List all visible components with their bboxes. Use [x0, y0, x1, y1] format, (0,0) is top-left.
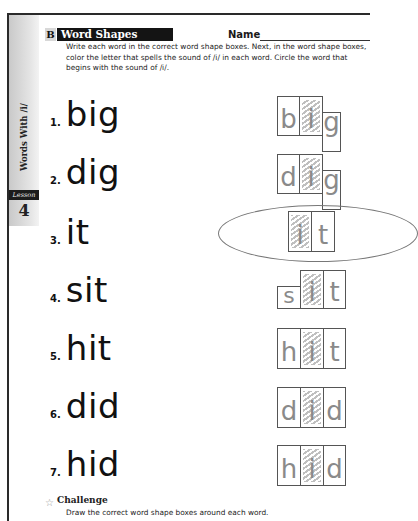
letter-box[interactable]: d: [323, 387, 346, 428]
name-field[interactable]: [260, 40, 370, 41]
letter-box[interactable]: d: [277, 387, 301, 428]
item-number: 4.: [50, 293, 61, 304]
letter-box[interactable]: t: [323, 328, 346, 369]
letter-box-descender[interactable]: g: [322, 112, 341, 152]
item-number: 2.: [50, 175, 61, 186]
top-border: [8, 13, 370, 15]
letter-box-colored[interactable]: i: [288, 211, 312, 252]
item-word: did: [66, 386, 120, 426]
letter-box[interactable]: b: [277, 96, 300, 136]
side-tab-title: Words With /i/: [9, 92, 39, 182]
item-number: 3.: [50, 235, 61, 246]
lesson-label: Lesson: [9, 190, 39, 200]
item-number: 7.: [50, 467, 61, 478]
item-2: 2. dig: [50, 152, 120, 192]
item-word: hid: [66, 444, 120, 484]
instructions: Write each word in the correct word shap…: [66, 42, 368, 74]
letter-box-short[interactable]: s: [277, 286, 301, 309]
letter-box-descender[interactable]: g: [322, 170, 341, 210]
item-word: big: [66, 94, 120, 134]
item-6: 6. did: [50, 386, 120, 426]
item-3: 3. it: [50, 212, 90, 252]
section-title: Word Shapes: [57, 28, 173, 41]
item-word: dig: [66, 152, 120, 192]
item-4: 4. sit: [50, 270, 108, 310]
item-number: 6.: [50, 409, 61, 420]
item-word: hit: [66, 328, 112, 368]
star-icon: ☆: [45, 497, 54, 508]
letter-box-colored[interactable]: i: [299, 154, 323, 194]
item-word: sit: [66, 270, 108, 310]
item-number: 5.: [50, 351, 61, 362]
letter-box[interactable]: h: [277, 445, 301, 486]
letter-box-colored[interactable]: i: [300, 445, 324, 486]
letter-box[interactable]: d: [277, 154, 300, 194]
lesson-number: 4: [9, 201, 39, 221]
letter-box-colored[interactable]: i: [299, 96, 323, 136]
section-letter: B: [45, 28, 56, 41]
challenge-text: Draw the correct word shape boxes around…: [66, 508, 268, 517]
letter-box[interactable]: t: [311, 211, 335, 252]
letter-box-colored[interactable]: i: [300, 270, 324, 309]
letter-box[interactable]: t: [323, 270, 346, 309]
name-label: Name: [228, 28, 260, 41]
letter-box[interactable]: h: [277, 328, 301, 369]
item-7: 7. hid: [50, 444, 120, 484]
item-word: it: [66, 212, 90, 252]
challenge-title: Challenge: [57, 495, 108, 505]
letter-box-colored[interactable]: i: [300, 387, 324, 428]
item-number: 1.: [50, 117, 61, 128]
letter-box[interactable]: d: [323, 445, 346, 486]
item-1: 1. big: [50, 94, 120, 134]
item-5: 5. hit: [50, 328, 112, 368]
letter-box-colored[interactable]: i: [300, 328, 324, 369]
